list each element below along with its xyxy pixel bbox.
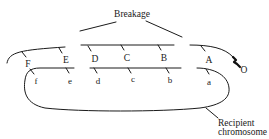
recipient-label-line2: chromosome (218, 127, 267, 137)
breakage-pointer-right (146, 21, 182, 37)
recipient-gene-b: b (168, 75, 173, 85)
donor-gene-C: C (124, 53, 130, 63)
recipient-gene-c: c (131, 74, 135, 84)
breakage-label: Breakage (114, 9, 150, 19)
breakage-pointer-left (80, 22, 116, 31)
origin-label: O (241, 65, 248, 75)
donor-segment-left (7, 47, 65, 63)
donor-gene-A: A (206, 55, 213, 65)
hfr-transfer-diagram: Breakage F E D C B A O f (0, 0, 269, 139)
origin-wiggle-icon (233, 57, 240, 67)
recipient-pointer (206, 108, 218, 118)
recipient-gene-e: e (68, 76, 72, 86)
recipient-chromosome (24, 68, 229, 118)
donor-gene-E: E (63, 55, 69, 65)
recipient-gene-a: a (207, 77, 211, 87)
recipient-gene-d: d (96, 76, 101, 86)
donor-gene-F: F (25, 59, 30, 69)
donor-gene-D: D (92, 54, 99, 64)
donor-gene-B: B (161, 53, 167, 63)
recipient-loop (24, 68, 229, 111)
recipient-gene-f: f (35, 76, 38, 86)
